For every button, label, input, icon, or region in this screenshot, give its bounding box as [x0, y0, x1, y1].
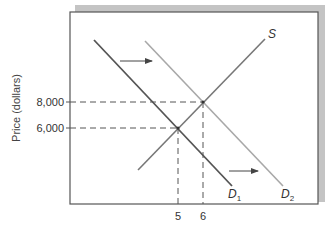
supply-demand-chart: Price (dollars) 8,000 6,000 5 6 S D1 D2 [0, 0, 333, 229]
demand1-label-main: D [228, 187, 237, 201]
x-tick-5: 5 [175, 210, 181, 222]
y-tick-6000: 6,000 [36, 122, 64, 134]
plot-frame [70, 12, 318, 204]
equilibrium-point-2 [201, 100, 204, 103]
x-tick-6: 6 [200, 210, 206, 222]
y-axis-title: Price (dollars) [10, 74, 22, 142]
supply-label: S [268, 27, 276, 41]
equilibrium-point-1 [176, 126, 179, 129]
demand1-label-sub: 1 [237, 194, 242, 203]
demand2-label-main: D [281, 187, 290, 201]
y-tick-8000: 8,000 [36, 96, 64, 108]
demand2-label-sub: 2 [290, 194, 295, 203]
